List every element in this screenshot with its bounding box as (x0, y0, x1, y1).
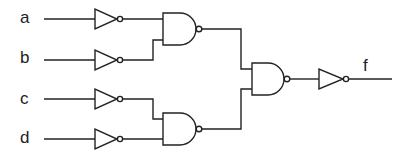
not-gate-b (95, 50, 123, 70)
wire-nand2-nand3 (202, 89, 252, 129)
nand-gate-1 (163, 13, 202, 45)
wire-notb-nand1 (123, 40, 163, 60)
input-label-b: b (20, 48, 29, 67)
wire-notc-nand2 (123, 99, 163, 119)
nand-gate-3 (252, 63, 290, 95)
input-label-a: a (20, 8, 30, 27)
output-label-f: f (363, 56, 368, 75)
input-label-d: d (20, 128, 29, 147)
logic-circuit-diagram: a b c d (0, 0, 410, 158)
not-gate-a (95, 9, 123, 29)
input-label-c: c (20, 89, 29, 108)
not-gate-c (95, 89, 123, 109)
nand-gate-2 (163, 113, 202, 145)
not-gate-output (319, 69, 349, 89)
not-gate-d (95, 129, 123, 149)
wire-nand1-nand3 (202, 29, 252, 69)
